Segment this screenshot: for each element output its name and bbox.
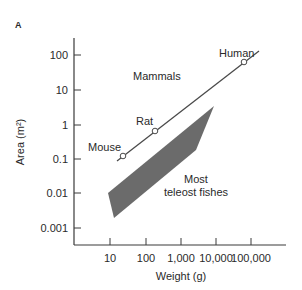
mouse-label: Mouse [88,141,121,153]
svg-text:100: 100 [50,49,68,61]
teleost-fishes-area [108,106,214,218]
svg-text:10: 10 [104,252,116,264]
x-tick-labels: 10 100 1,000 10,000 100,000 [104,252,271,264]
svg-text:100,000: 100,000 [231,252,271,264]
svg-text:1,000: 1,000 [167,252,195,264]
rat-label: Rat [136,115,153,127]
human-point [241,59,247,65]
chart: A 100 10 1 0.1 0.01 0.001 10 100 1,000 1… [0,0,302,290]
y-ticks [74,55,81,228]
svg-text:100: 100 [137,252,155,264]
human-label: Human [219,47,254,59]
fishes-label-line2: teleost fishes [164,186,229,198]
svg-text:1: 1 [62,119,68,131]
svg-text:0.001: 0.001 [40,222,68,234]
svg-text:0.01: 0.01 [47,187,68,199]
svg-text:10: 10 [56,84,68,96]
y-tick-labels: 100 10 1 0.1 0.01 0.001 [40,49,68,234]
mammals-label: Mammals [133,70,181,82]
svg-text:0.1: 0.1 [53,153,68,165]
panel-label: A [15,20,22,30]
mouse-point [120,153,126,159]
fishes-label-line1: Most [184,173,208,185]
rat-point [152,128,158,134]
x-axis-label: Weight (g) [156,270,207,282]
x-ticks [110,238,251,245]
y-axis-label: Area (m²) [14,119,26,165]
svg-text:10,000: 10,000 [199,252,233,264]
